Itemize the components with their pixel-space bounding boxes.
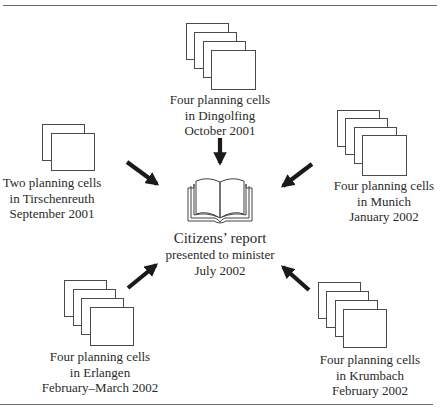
arrow-up-right-icon — [128, 265, 156, 288]
center-label: Citizens’ report presented to minister J… — [165, 230, 274, 278]
arrow-down-left-icon — [283, 164, 312, 186]
diagram-graphics — [0, 0, 440, 414]
arrow-up-left-icon — [283, 267, 309, 290]
center-title: Citizens’ report — [165, 230, 274, 247]
center-subtitle: presented to minister — [165, 247, 274, 263]
center-date: July 2002 — [165, 263, 274, 279]
open-book-icon — [188, 179, 252, 223]
arrow-down-right-icon — [127, 162, 157, 184]
